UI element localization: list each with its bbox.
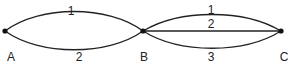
node-labels: A B C	[7, 50, 289, 64]
node-label-c: C	[280, 50, 289, 64]
node-label-a: A	[7, 50, 15, 64]
edge-label-a-b-2: 2	[76, 50, 83, 64]
node-label-b: B	[140, 50, 148, 64]
edge-a-b-2	[5, 31, 143, 50]
edge-b-c-3	[143, 31, 281, 48]
node-c	[278, 28, 283, 33]
edge-label-b-c-3: 3	[208, 50, 215, 64]
edge-label-b-c-1: 1	[208, 3, 215, 17]
edge-label-b-c-2: 2	[208, 17, 215, 31]
node-b	[140, 28, 145, 33]
edge-label-a-b-1: 1	[68, 4, 75, 18]
node-a	[2, 28, 7, 33]
multigraph-diagram: 1 2 1 2 3 A B C	[0, 0, 291, 67]
